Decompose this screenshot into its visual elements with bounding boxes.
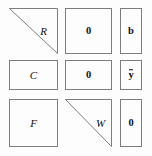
block-b: b: [120, 8, 142, 54]
block-w: W: [65, 99, 112, 147]
block-zero-middle: 0: [65, 60, 112, 90]
block-y-bar: y: [120, 60, 142, 90]
block-c: C: [9, 60, 58, 90]
block-matrix-figure: R 0 b C 0 y F W: [0, 0, 152, 156]
overbar-accent: y: [128, 69, 133, 81]
block-zero-middle-label: 0: [65, 70, 112, 81]
block-zero-top: 0: [65, 8, 112, 54]
block-y-bar-label: y: [120, 69, 142, 81]
block-zero-top-label: 0: [65, 26, 112, 37]
block-r-label: R: [32, 26, 56, 37]
block-b-label: b: [120, 26, 142, 37]
block-r: R: [9, 8, 58, 54]
block-f: F: [9, 99, 58, 147]
block-w-label: W: [89, 118, 113, 129]
block-f-label: F: [9, 118, 58, 129]
block-zero-bottom-label: 0: [120, 118, 142, 129]
block-zero-bottom: 0: [120, 99, 142, 147]
block-c-label: C: [9, 70, 58, 81]
